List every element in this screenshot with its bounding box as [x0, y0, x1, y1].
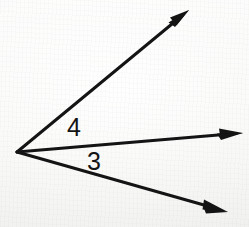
- middle-ray: [17, 129, 243, 153]
- upper-ray-shaft: [17, 19, 178, 152]
- rays-vector-canvas: [0, 0, 249, 227]
- middle-ray-shaft: [17, 135, 224, 153]
- upper-ray: [17, 10, 189, 152]
- angle-label-4: 4: [67, 115, 81, 140]
- angle-diagram-figure: 4 3: [0, 0, 249, 227]
- angle-label-3: 3: [87, 149, 101, 174]
- lower-ray: [17, 152, 228, 214]
- middle-ray-arrow-barb: [217, 133, 243, 140]
- lower-ray-shaft: [17, 152, 211, 207]
